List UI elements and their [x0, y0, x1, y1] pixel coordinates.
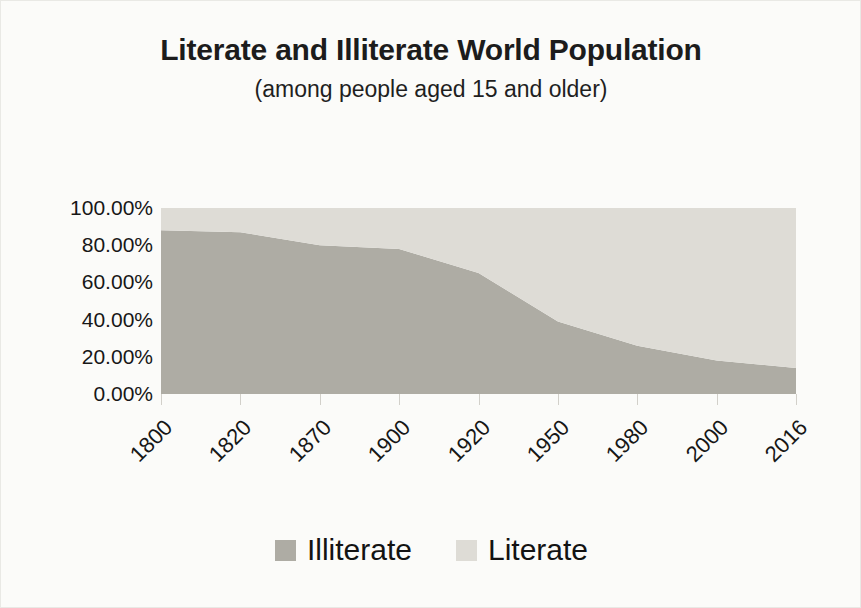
x-axis-tick-label: 1820 [204, 416, 256, 468]
legend-item-illiterate[interactable]: Illiterate [275, 535, 412, 565]
legend-swatch-icon [456, 540, 477, 561]
x-axis-tick-mark [320, 394, 321, 405]
x-axis-tick-label: 2000 [680, 416, 732, 468]
x-axis-tick-mark [161, 394, 162, 405]
x-axis-tick-mark [637, 394, 638, 405]
chart-legend: IlliterateLiterate [1, 535, 861, 565]
x-axis-tick-marks [161, 394, 796, 406]
x-axis-tick-mark [558, 394, 559, 405]
x-axis-tick-label: 1980 [600, 416, 652, 468]
legend-item-literate[interactable]: Literate [456, 535, 588, 565]
plot-wrapper [1, 1, 861, 608]
x-axis-tick-label: 1900 [362, 416, 414, 468]
x-axis-tick-mark [796, 394, 797, 405]
legend-label: Literate [488, 535, 588, 565]
chart-container: Literate and Illiterate World Population… [0, 0, 861, 608]
x-axis-tick-label: 1870 [283, 416, 335, 468]
area-chart-svg [161, 208, 796, 394]
x-axis-tick-mark [240, 394, 241, 405]
legend-label: Illiterate [307, 535, 412, 565]
plot-area [161, 208, 796, 394]
x-axis-tick-label: 1920 [442, 416, 494, 468]
x-axis-tick-mark [479, 394, 480, 405]
x-axis: 180018201870190019201950198020002016 [161, 406, 796, 506]
x-axis-tick-mark [399, 394, 400, 405]
x-axis-tick-label: 1950 [521, 416, 573, 468]
x-axis-tick-mark [717, 394, 718, 405]
legend-swatch-icon [275, 540, 296, 561]
